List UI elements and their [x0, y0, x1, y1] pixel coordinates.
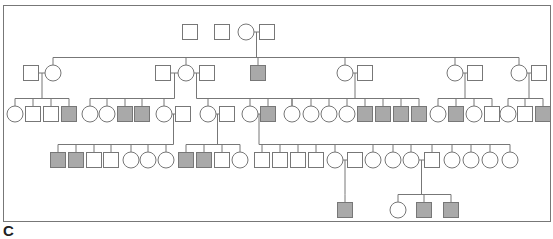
male-square-icon [24, 66, 39, 81]
male-square-icon [260, 25, 275, 40]
affected-male-square-icon [536, 107, 551, 122]
female-circle-icon [232, 152, 248, 168]
female-circle-icon [321, 106, 337, 122]
affected-male-square-icon [444, 203, 459, 218]
male-square-icon [26, 107, 41, 122]
affected-male-square-icon [135, 107, 150, 122]
affected-male-square-icon [261, 107, 276, 122]
male-square-icon [183, 25, 198, 40]
male-square-icon [348, 153, 363, 168]
female-circle-icon [482, 152, 498, 168]
male-square-icon [468, 66, 483, 81]
female-circle-icon [82, 106, 98, 122]
affected-male-square-icon [69, 153, 84, 168]
male-square-icon [291, 153, 306, 168]
female-circle-icon [430, 106, 446, 122]
female-circle-icon [385, 152, 401, 168]
male-square-icon [44, 107, 59, 122]
male-square-icon [215, 153, 230, 168]
female-circle-icon [200, 106, 216, 122]
affected-male-square-icon [62, 107, 77, 122]
male-square-icon [156, 66, 171, 81]
female-circle-icon [99, 106, 115, 122]
male-square-icon [485, 107, 500, 122]
affected-male-square-icon [118, 107, 133, 122]
affected-male-square-icon [412, 107, 427, 122]
male-square-icon [358, 66, 373, 81]
male-square-icon [518, 107, 533, 122]
female-circle-icon [156, 106, 172, 122]
affected-male-square-icon [251, 66, 266, 81]
male-square-icon [215, 25, 230, 40]
male-square-icon [309, 153, 324, 168]
affected-male-square-icon [358, 107, 373, 122]
female-circle-icon [7, 106, 23, 122]
female-circle-icon [444, 152, 460, 168]
male-square-icon [176, 107, 191, 122]
female-circle-icon [158, 152, 174, 168]
male-square-icon [425, 153, 440, 168]
affected-male-square-icon [197, 153, 212, 168]
female-circle-icon [365, 152, 381, 168]
female-circle-icon [284, 106, 300, 122]
male-square-icon [200, 66, 215, 81]
female-circle-icon [337, 65, 353, 81]
female-circle-icon [178, 65, 194, 81]
female-circle-icon [339, 106, 355, 122]
male-square-icon [532, 66, 547, 81]
male-square-icon [104, 153, 119, 168]
pedigree-chart [0, 0, 553, 222]
female-circle-icon [327, 152, 343, 168]
male-square-icon [87, 153, 102, 168]
female-circle-icon [466, 106, 482, 122]
female-circle-icon [447, 65, 463, 81]
female-circle-icon [463, 152, 479, 168]
affected-male-square-icon [376, 107, 391, 122]
female-circle-icon [238, 24, 254, 40]
affected-male-square-icon [417, 203, 432, 218]
affected-male-square-icon [338, 203, 353, 218]
male-square-icon [220, 107, 235, 122]
female-circle-icon [390, 202, 406, 218]
female-circle-icon [123, 152, 139, 168]
male-square-icon [273, 153, 288, 168]
female-circle-icon [511, 65, 527, 81]
affected-male-square-icon [179, 153, 194, 168]
affected-male-square-icon [394, 107, 409, 122]
female-circle-icon [500, 106, 516, 122]
female-circle-icon [45, 65, 61, 81]
affected-male-square-icon [51, 153, 66, 168]
individual-symbols [7, 24, 551, 218]
affected-male-square-icon [449, 107, 464, 122]
male-square-icon [255, 153, 270, 168]
female-circle-icon [140, 152, 156, 168]
female-circle-icon [502, 152, 518, 168]
female-circle-icon [403, 152, 419, 168]
female-circle-icon [242, 106, 258, 122]
female-circle-icon [303, 106, 319, 122]
panel-label: C [3, 222, 14, 239]
